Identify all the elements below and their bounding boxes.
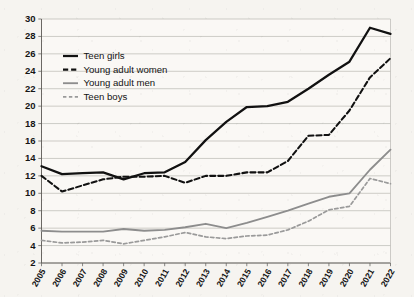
y-axis-label: 10 (25, 187, 36, 198)
x-axis-ticks: 2005200620072008200920102011201220132014… (30, 263, 397, 289)
x-axis-label: 2012 (173, 267, 191, 289)
x-axis-label: 2022 (379, 267, 397, 289)
x-axis-label: 2006 (50, 267, 68, 289)
x-axis-label: 2013 (194, 267, 212, 289)
x-axis-label: 2018 (296, 267, 314, 289)
x-axis-label: 2016 (255, 267, 273, 289)
x-axis-label: 2005 (30, 267, 48, 289)
y-axis-label: 14 (25, 152, 36, 163)
x-axis-label: 2019 (317, 267, 335, 289)
x-axis-label: 2009 (112, 267, 130, 289)
x-axis-label: 2014 (214, 267, 232, 289)
y-axis-label: 16 (25, 135, 36, 146)
x-axis-label: 2015 (235, 267, 253, 289)
legend-label-teen-boys: Teen boys (84, 91, 128, 102)
y-axis-label: 20 (25, 100, 36, 111)
chart-container: 2468101214161820222426283020052006200720… (0, 0, 414, 297)
y-axis-label: 8 (30, 205, 35, 216)
x-axis-label: 2021 (358, 267, 376, 289)
line-chart: 2468101214161820222426283020052006200720… (0, 0, 414, 297)
y-axis-label: 4 (30, 240, 36, 251)
y-axis-label: 12 (25, 170, 36, 181)
x-axis-label: 2007 (71, 267, 89, 289)
y-axis-label: 18 (25, 118, 36, 129)
x-axis-label: 2008 (91, 267, 109, 289)
legend-label-young-adult-women: Young adult women (84, 64, 168, 75)
legend-label-young-adult-men: Young adult men (84, 77, 156, 88)
legend-label-teen-girls: Teen girls (84, 50, 125, 61)
y-axis-label: 24 (25, 65, 36, 76)
x-axis-label: 2010 (132, 267, 150, 289)
y-axis-label: 28 (25, 30, 36, 41)
y-axis-label: 2 (30, 257, 35, 268)
y-axis-label: 22 (25, 83, 36, 94)
x-axis-label: 2017 (276, 267, 294, 289)
y-axis-label: 26 (25, 48, 36, 59)
y-axis-label: 6 (30, 222, 35, 233)
y-axis-label: 30 (25, 13, 36, 24)
x-axis-label: 2011 (153, 267, 171, 288)
x-axis-label: 2020 (337, 267, 355, 289)
